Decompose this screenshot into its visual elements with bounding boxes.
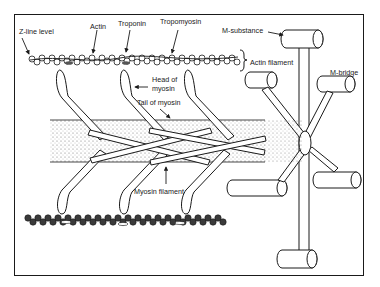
actin-filament-top bbox=[29, 55, 240, 65]
label-myosin-filament: Myosin filament bbox=[134, 188, 184, 195]
label-actin-filament: Actin filament bbox=[250, 59, 293, 66]
label-tail-of-myosin: Tail of myosin bbox=[137, 99, 181, 106]
muscle-filament-diagram bbox=[0, 0, 380, 287]
label-head-of-myosin-line2: myosin bbox=[152, 85, 175, 92]
label-m-substance: M-substance bbox=[222, 27, 263, 34]
actin-filament-bottom bbox=[25, 215, 226, 226]
label-z-line-level: Z-line level bbox=[19, 28, 54, 35]
label-troponin: Troponin bbox=[118, 20, 146, 27]
label-m-bridge: M-bridge bbox=[330, 69, 358, 76]
actin-filament-bracket bbox=[240, 50, 247, 71]
label-head-of-myosin-line1: Head of bbox=[152, 76, 177, 83]
label-actin: Actin bbox=[90, 23, 106, 30]
label-tropomyosin: Tropomyosin bbox=[160, 18, 201, 25]
